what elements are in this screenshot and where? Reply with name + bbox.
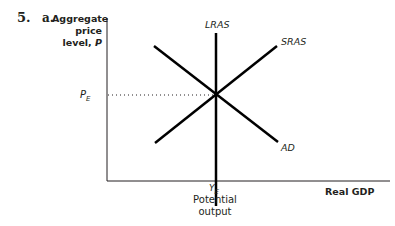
potential-text: Potential [190, 194, 240, 206]
potential-output-label: Potential output [190, 194, 240, 218]
output-text: output [190, 206, 240, 218]
pe-label: PE [80, 89, 90, 103]
ad-label: AD [281, 142, 295, 153]
lras-label: LRAS [205, 19, 229, 30]
x-axis-label: Real GDP [325, 186, 374, 197]
sras-label: SRAS [281, 36, 306, 47]
